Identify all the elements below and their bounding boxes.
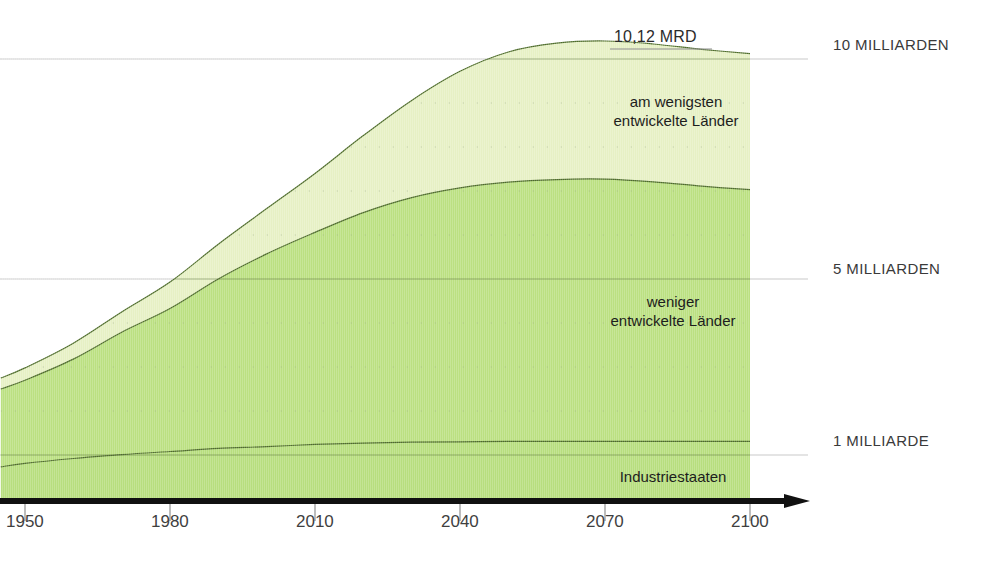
- area-layer: [1, 6, 750, 499]
- chart-figure: 10 MILLIARDEN 5 MILLIARDEN 1 MILLIARDE 1…: [0, 0, 984, 572]
- population-area-chart: [0, 0, 984, 572]
- arrow-right-icon: [784, 494, 810, 508]
- band-texture: [1, 6, 750, 499]
